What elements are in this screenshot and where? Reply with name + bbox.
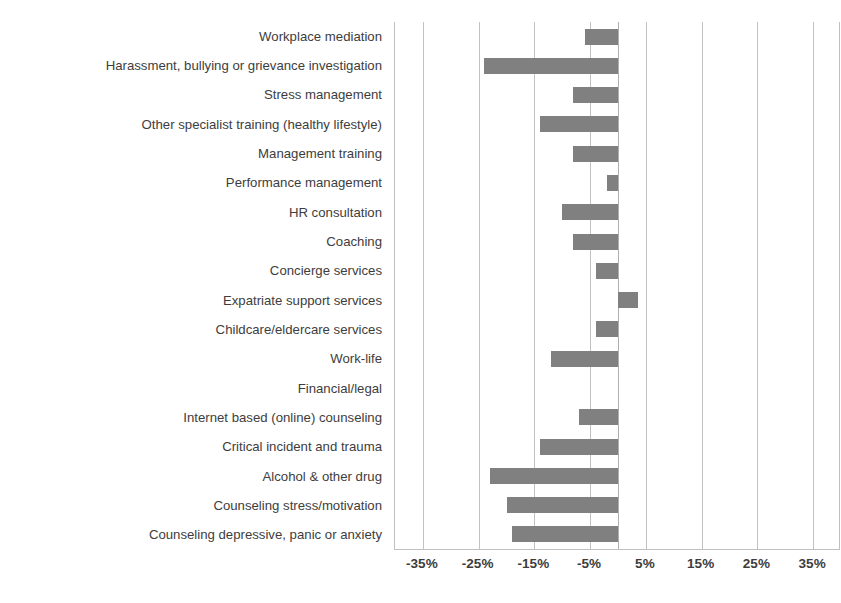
category-label: Work-life	[0, 345, 388, 374]
bar-row	[395, 51, 839, 80]
category-label: Counseling stress/motivation	[0, 491, 388, 520]
bar	[562, 204, 618, 220]
category-label: Expatriate support services	[0, 286, 388, 315]
value-axis-tick: -5%	[577, 556, 601, 571]
bar-row	[395, 461, 839, 490]
bar-row	[395, 256, 839, 285]
bar-row	[395, 520, 839, 549]
bar	[507, 497, 619, 513]
bar	[551, 351, 618, 367]
value-axis-tick: 35%	[799, 556, 826, 571]
bar	[607, 175, 618, 191]
value-axis-labels: -35%-25%-15%-5%5%15%25%35%	[394, 556, 840, 580]
bar	[596, 263, 618, 279]
category-label: Counseling depressive, panic or anxiety	[0, 521, 388, 550]
category-label: Management training	[0, 139, 388, 168]
bar	[618, 292, 638, 308]
value-axis-tick: -15%	[518, 556, 550, 571]
category-label: Other specialist training (healthy lifes…	[0, 110, 388, 139]
bar-series	[395, 22, 839, 549]
value-axis-tick: -25%	[462, 556, 494, 571]
bar-chart: Workplace mediationHarassment, bullying …	[0, 0, 841, 603]
category-label: Alcohol & other drug	[0, 462, 388, 491]
bar	[490, 468, 618, 484]
bar-row	[395, 403, 839, 432]
bar	[512, 526, 618, 542]
category-label: Coaching	[0, 227, 388, 256]
bar	[573, 234, 618, 250]
category-label: HR consultation	[0, 198, 388, 227]
bar-row	[395, 286, 839, 315]
category-label: Internet based (online) counseling	[0, 403, 388, 432]
category-label: Financial/legal	[0, 374, 388, 403]
bar-row	[395, 198, 839, 227]
bar-row	[395, 81, 839, 110]
category-label: Childcare/eldercare services	[0, 315, 388, 344]
bar-row	[395, 315, 839, 344]
bar-row	[395, 432, 839, 461]
bar-row	[395, 139, 839, 168]
value-axis-tick: 15%	[687, 556, 714, 571]
bar-row	[395, 344, 839, 373]
category-label: Harassment, bullying or grievance invest…	[0, 51, 388, 80]
bar	[596, 321, 618, 337]
bar	[585, 29, 618, 45]
bar	[573, 146, 618, 162]
value-axis-tick: -35%	[406, 556, 438, 571]
bar	[484, 58, 618, 74]
plot-area	[394, 22, 840, 550]
category-label: Performance management	[0, 169, 388, 198]
value-axis-tick: 5%	[635, 556, 655, 571]
value-axis-tick: 25%	[743, 556, 770, 571]
category-label: Critical incident and trauma	[0, 433, 388, 462]
bar-row	[395, 110, 839, 139]
bar-row	[395, 227, 839, 256]
bar	[579, 409, 618, 425]
category-label: Concierge services	[0, 257, 388, 286]
bar	[573, 87, 618, 103]
category-axis-labels: Workplace mediationHarassment, bullying …	[0, 22, 388, 550]
bar-row	[395, 373, 839, 402]
category-label: Stress management	[0, 81, 388, 110]
bar	[540, 439, 618, 455]
chart-title	[180, 0, 680, 5]
bar-row	[395, 168, 839, 197]
bar-row	[395, 491, 839, 520]
category-label: Workplace mediation	[0, 22, 388, 51]
bar	[540, 116, 618, 132]
bar-row	[395, 22, 839, 51]
